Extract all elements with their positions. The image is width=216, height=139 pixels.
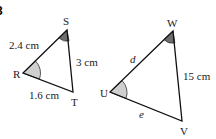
side-uv-label: e — [139, 108, 144, 120]
vertex-v-label: V — [180, 125, 188, 137]
triangle-rst: S R T 2.4 cm 3 cm 1.6 cm — [9, 15, 98, 108]
vertex-w-label: W — [167, 17, 178, 29]
vertex-s-label: S — [63, 15, 69, 27]
triangle-uvw: W U V d 15 cm e — [100, 17, 211, 137]
side-uw-label: d — [130, 53, 136, 65]
similar-triangles-diagram: 3 S R T 2.4 cm 3 cm 1.6 cm W U V d 15 cm… — [0, 0, 216, 139]
vertex-t-label: T — [71, 96, 78, 108]
side-rt-label: 1.6 cm — [29, 89, 59, 101]
question-number: 3 — [0, 4, 3, 18]
vertex-u-label: U — [100, 87, 108, 99]
side-rs-label: 2.4 cm — [9, 39, 39, 51]
side-st-label: 3 cm — [76, 56, 98, 68]
vertex-r-label: R — [13, 68, 21, 80]
side-wv-label: 15 cm — [183, 70, 211, 82]
triangle-uvw-outline — [110, 31, 182, 121]
